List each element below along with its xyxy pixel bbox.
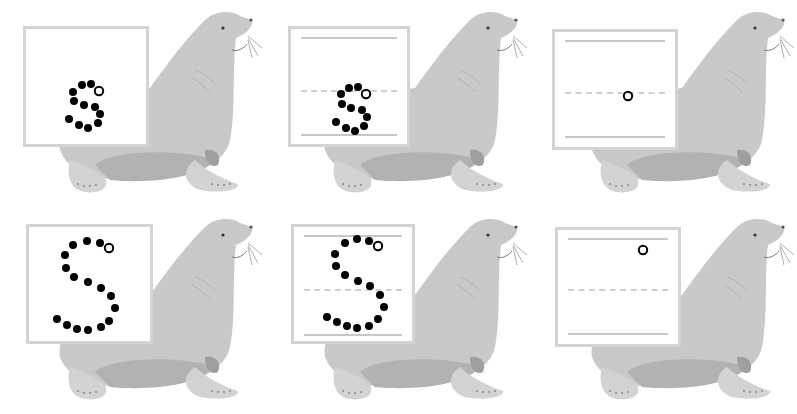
base-guide-line [565, 136, 665, 138]
tracing-card [552, 29, 678, 150]
mid-guide-line [301, 90, 397, 92]
panel-5 [265, 207, 530, 414]
base-guide-line [301, 134, 397, 136]
panel-1 [0, 0, 265, 207]
tracing-card [23, 26, 149, 147]
panel-2 [265, 0, 530, 207]
tracing-card [26, 224, 153, 344]
tracing-card [555, 227, 681, 347]
top-guide-line [304, 235, 402, 237]
tracing-card [291, 224, 415, 344]
top-guide-line [568, 238, 668, 240]
mid-guide-line [304, 289, 402, 291]
base-guide-line [568, 333, 668, 335]
top-guide-line [565, 40, 665, 42]
tracing-card [288, 26, 410, 147]
base-guide-line [304, 334, 402, 336]
panel-3 [532, 0, 797, 207]
panel-6 [532, 207, 797, 414]
top-guide-line [301, 37, 397, 39]
panel-4 [0, 207, 265, 414]
mid-guide-line [568, 289, 668, 291]
mid-guide-line [565, 92, 665, 94]
